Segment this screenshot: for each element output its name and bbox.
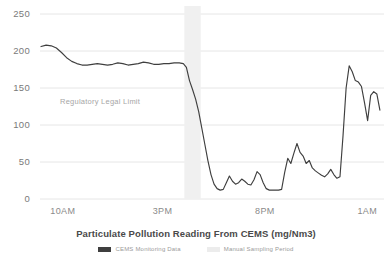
x-tick-10AM: 10AM <box>50 206 75 216</box>
regulatory-legal-limit-annotation: Regulatory Legal Limit <box>60 97 140 106</box>
y-tick-150: 150 <box>2 82 30 93</box>
legend-label-manual-sampling: Manual Sampling Period <box>224 246 294 252</box>
y-tick-100: 100 <box>2 119 30 130</box>
legend-label-cems: CEMS Monitoring Data <box>115 246 180 252</box>
manual-sampling-period-band <box>184 6 200 199</box>
chart-plot-area <box>0 0 392 267</box>
y-tick-250: 250 <box>2 8 30 19</box>
legend-swatch-band <box>207 247 220 252</box>
legend-item-cems: CEMS Monitoring Data <box>98 246 180 252</box>
y-tick-0: 0 <box>2 193 30 204</box>
legend-swatch-line <box>98 247 111 252</box>
legend-item-manual-sampling: Manual Sampling Period <box>207 246 294 252</box>
x-tick-3PM: 3PM <box>153 206 173 216</box>
x-tick-1AM: 1AM <box>357 206 377 216</box>
x-tick-8PM: 8PM <box>255 206 275 216</box>
chart-legend: CEMS Monitoring Data Manual Sampling Per… <box>0 246 392 252</box>
y-tick-50: 50 <box>2 156 30 167</box>
y-tick-200: 200 <box>2 45 30 56</box>
chart-title: Particulate Pollution Reading From CEMS … <box>0 228 392 239</box>
cems-monitoring-data-line <box>41 45 380 190</box>
pollution-line-chart: 050100150200250 10AM3PM8PM1AM Regulatory… <box>0 0 392 267</box>
